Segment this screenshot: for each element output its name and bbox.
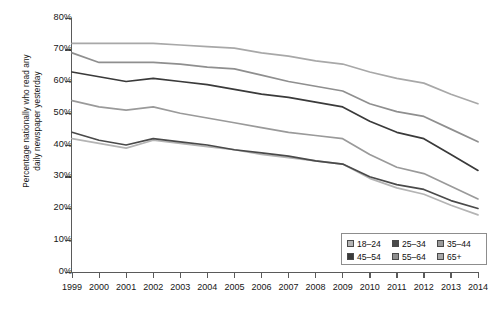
x-axis-tick — [450, 272, 451, 278]
y-axis-tick-label: 40% — [16, 139, 72, 149]
legend-item[interactable]: 55–64 — [392, 252, 437, 262]
legend-label: 25–34 — [402, 239, 426, 249]
y-axis-tick-label: 0% — [16, 266, 72, 276]
legend: 18–2425–3435–4445–5455–6465+ — [341, 233, 487, 265]
legend-label: 35–44 — [447, 239, 471, 249]
legend-label: 65+ — [447, 252, 462, 262]
legend-label: 45–54 — [357, 252, 381, 262]
y-axis-tick-label: 80% — [16, 12, 72, 22]
x-axis-tick — [234, 272, 235, 278]
y-axis-tick-label: 60% — [16, 75, 72, 85]
legend-item[interactable]: 18–24 — [347, 239, 392, 249]
legend-item[interactable]: 25–34 — [392, 239, 437, 249]
legend-label: 18–24 — [357, 239, 381, 249]
x-axis-tick — [261, 272, 262, 278]
legend-item[interactable]: 45–54 — [347, 252, 392, 262]
x-axis-tick — [207, 272, 208, 278]
x-axis-tick — [153, 272, 154, 278]
x-axis-tick — [423, 272, 424, 278]
legend-row: 18–2425–3435–44 — [347, 237, 482, 250]
x-axis-line — [71, 272, 479, 273]
x-axis-tick — [180, 272, 181, 278]
y-axis-tick-label: 10% — [16, 234, 72, 244]
y-axis-tick-label: 30% — [16, 170, 72, 180]
legend-row: 45–5455–6465+ — [347, 250, 482, 263]
x-axis-tick — [72, 272, 73, 278]
x-axis-tick — [396, 272, 397, 278]
x-axis-tick — [478, 272, 479, 278]
legend-swatch-icon — [437, 253, 444, 260]
x-axis-tick — [369, 272, 370, 278]
x-axis-tick-label: 2014 — [461, 282, 495, 292]
y-axis-tick-label: 70% — [16, 43, 72, 53]
legend-label: 55–64 — [402, 252, 426, 262]
legend-item[interactable]: 35–44 — [437, 239, 482, 249]
legend-swatch-icon — [392, 240, 399, 247]
chart-container: Percentage nationally who read any daily… — [0, 0, 499, 311]
legend-swatch-icon — [437, 240, 444, 247]
legend-swatch-icon — [392, 253, 399, 260]
y-axis-tick-label: 50% — [16, 107, 72, 117]
x-axis-tick — [342, 272, 343, 278]
legend-swatch-icon — [347, 253, 354, 260]
y-axis-tick-label: 20% — [16, 202, 72, 212]
x-axis-tick — [315, 272, 316, 278]
legend-item[interactable]: 65+ — [437, 252, 482, 262]
x-axis-tick — [126, 272, 127, 278]
y-axis: 0%10%20%30%40%50%60%70%80% — [0, 0, 72, 311]
x-axis-tick — [99, 272, 100, 278]
legend-swatch-icon — [347, 240, 354, 247]
x-axis-tick — [288, 272, 289, 278]
